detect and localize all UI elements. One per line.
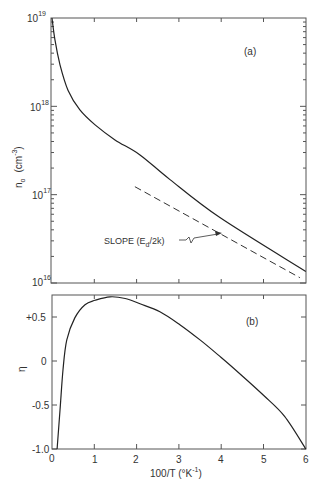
bottom-y-tick-labels: +0.5 0 -0.5 -1.0 [26, 312, 50, 455]
svg-text:-0.5: -0.5 [32, 400, 50, 411]
n0-curve [52, 18, 306, 272]
svg-text:-1.0: -1.0 [32, 444, 50, 455]
top-y-axis-label: no(cm-3) [11, 146, 26, 188]
annotation-arrow [179, 234, 218, 243]
svg-text:2: 2 [133, 454, 139, 465]
eta-curve [57, 297, 306, 449]
top-panel-frame [51, 18, 306, 283]
arrow-head-icon [215, 231, 222, 236]
top-panel-ticks [51, 18, 306, 283]
x-axis-label: 100/T (°K-1) [150, 466, 202, 479]
bottom-panel-frame [52, 295, 306, 449]
panel-label-b: (b) [246, 316, 258, 327]
x-tick-labels: 0 1 2 3 4 5 6 [49, 453, 309, 465]
svg-text:1018: 1018 [30, 99, 49, 113]
panel-label-a: (a) [244, 46, 256, 57]
bottom-y-axis-label: η [16, 366, 27, 372]
svg-text:0: 0 [41, 356, 47, 367]
svg-text:5: 5 [261, 454, 267, 465]
svg-text:1016: 1016 [32, 274, 51, 288]
svg-text:6: 6 [303, 454, 309, 465]
svg-text:0: 0 [49, 453, 55, 464]
svg-text:1: 1 [92, 454, 98, 465]
svg-text:4: 4 [218, 454, 224, 465]
svg-text:1019: 1019 [27, 10, 46, 24]
slope-annotation: SLOPE (Ed/2k) [104, 236, 164, 248]
svg-text:1017: 1017 [32, 187, 51, 201]
svg-text:+0.5: +0.5 [26, 312, 46, 323]
top-y-tick-labels: 1019 1018 1017 1016 [27, 10, 51, 288]
bottom-panel-ticks [52, 295, 306, 449]
chart-figure: 1019 1018 1017 1016 no(cm-3) (a) (b) SLO… [0, 0, 323, 487]
svg-text:3: 3 [176, 454, 182, 465]
